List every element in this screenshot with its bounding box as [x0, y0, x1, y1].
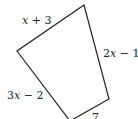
label-bottom-left-side: 3x − 2: [7, 89, 43, 102]
quadrilateral-diagram: x + 3 2x − 1 3x − 2 7: [0, 0, 138, 119]
label-top-left-side: x + 3: [22, 14, 51, 27]
label-bottom-right-side: 7: [92, 111, 99, 119]
label-right-side: 2x − 1: [103, 47, 138, 60]
